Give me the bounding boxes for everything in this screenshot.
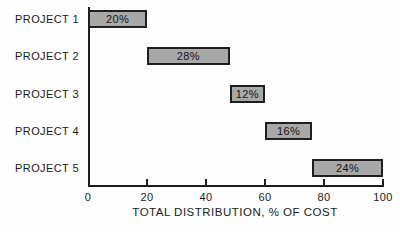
bar-value-label-5: 24% [336,162,359,174]
x-axis-line [88,185,384,187]
bar-value-label-2: 28% [177,50,200,62]
bar-project-2: 28% [147,47,230,65]
cascade-bar-chart: TOTAL DISTRIBUTION, % OF COST PROJECT 12… [0,0,400,232]
category-label-2: PROJECT 2 [0,49,79,63]
bar-project-3: 12% [230,85,265,103]
bar-value-label-4: 16% [277,125,300,137]
x-tick-label-20: 20 [130,191,164,203]
x-tick-40 [205,179,207,185]
x-axis-title: TOTAL DISTRIBUTION, % OF COST [80,206,390,218]
bar-project-4: 16% [265,122,312,140]
x-tick-80 [323,179,325,185]
x-tick-label-60: 60 [248,191,282,203]
bar-project-1: 20% [88,10,147,28]
x-tick-label-0: 0 [71,191,105,203]
x-tick-20 [146,179,148,185]
category-label-5: PROJECT 5 [0,161,79,175]
y-axis-line [88,7,90,187]
category-label-1: PROJECT 1 [0,12,79,26]
x-tick-label-40: 40 [189,191,223,203]
category-label-3: PROJECT 3 [0,87,79,101]
category-label-4: PROJECT 4 [0,124,79,138]
bar-value-label-1: 20% [106,13,129,25]
bar-value-label-3: 12% [236,88,259,100]
x-tick-label-100: 100 [366,191,400,203]
x-tick-100 [382,179,384,185]
x-tick-60 [264,179,266,185]
x-tick-label-80: 80 [307,191,341,203]
bar-project-5: 24% [312,159,383,177]
